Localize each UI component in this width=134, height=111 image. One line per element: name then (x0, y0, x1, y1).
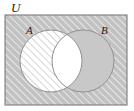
venn-diagram-figure: U A B (0, 0, 134, 111)
label-set-a: A (25, 24, 33, 36)
label-universe: U (11, 0, 22, 15)
label-set-b: B (101, 24, 108, 36)
venn-diagram-canvas: U A B (0, 0, 134, 111)
